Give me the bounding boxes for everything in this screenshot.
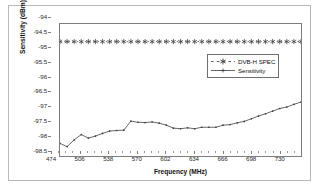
data-point-marker bbox=[122, 39, 126, 44]
x-axis-title: Frequency (MHz) bbox=[59, 168, 302, 175]
x-tick-mark-minor bbox=[287, 151, 288, 153]
dashed-asterisk-line-icon bbox=[210, 57, 236, 66]
x-tick-mark-minor bbox=[187, 151, 188, 153]
plot-canvas bbox=[60, 24, 301, 156]
data-point-marker bbox=[279, 108, 281, 110]
x-tick-mark-minor bbox=[265, 151, 266, 153]
data-point-marker bbox=[73, 139, 75, 141]
x-tick-mark-major bbox=[108, 151, 109, 154]
data-point-marker bbox=[158, 122, 160, 124]
x-tick-label: 474 bbox=[46, 155, 56, 162]
x-tick-mark-minor bbox=[208, 151, 209, 153]
x-tick-mark-minor bbox=[237, 151, 238, 153]
data-point-marker bbox=[286, 106, 288, 108]
legend-item-sensitivity[interactable]: Sensitivity bbox=[210, 66, 275, 75]
x-tick-mark-major bbox=[80, 151, 81, 154]
x-tick-mark-major bbox=[165, 151, 166, 154]
data-point-marker bbox=[236, 122, 238, 124]
data-point-marker bbox=[102, 133, 104, 135]
data-point-marker bbox=[173, 127, 175, 129]
data-point-marker bbox=[242, 39, 246, 44]
chart-figure: -94-94.5-95-95.5-96-96.5-97-97.5-98-98.5… bbox=[0, 0, 321, 188]
data-point-marker bbox=[80, 134, 82, 136]
x-tick-mark-minor bbox=[130, 151, 131, 153]
data-point-marker bbox=[151, 121, 153, 123]
solid-marker-line-icon bbox=[210, 66, 236, 75]
y-tick-label: -96.5 bbox=[17, 87, 47, 94]
data-point-marker bbox=[243, 121, 245, 123]
x-tick-mark-minor bbox=[87, 151, 88, 153]
x-tick-mark-minor bbox=[122, 151, 123, 153]
y-tick-label: -96 bbox=[17, 73, 47, 80]
data-point-marker bbox=[201, 126, 203, 128]
x-tick-mark-minor bbox=[215, 151, 216, 153]
x-tick-mark-minor bbox=[180, 151, 181, 153]
data-point-marker bbox=[150, 39, 154, 44]
data-point-marker bbox=[180, 128, 182, 130]
x-tick-mark-minor bbox=[115, 151, 116, 153]
data-point-marker bbox=[101, 39, 105, 44]
chart-frame: -94-94.5-95-95.5-96-96.5-97-97.5-98-98.5… bbox=[8, 5, 311, 181]
series-line bbox=[60, 102, 301, 147]
y-tick-label: -97 bbox=[17, 102, 47, 109]
x-tick-mark-minor bbox=[230, 151, 231, 153]
data-point-marker bbox=[88, 137, 90, 139]
y-tick-mark bbox=[48, 136, 51, 137]
data-point-marker bbox=[130, 120, 132, 122]
legend-label-sensitivity: Sensitivity bbox=[238, 67, 265, 74]
x-tick-mark-minor bbox=[273, 151, 274, 153]
x-tick-label: 570 bbox=[132, 155, 142, 162]
data-point-marker bbox=[229, 124, 231, 126]
x-tick-label: 602 bbox=[160, 155, 170, 162]
x-tick-mark-minor bbox=[94, 151, 95, 153]
y-tick-mark bbox=[48, 47, 51, 48]
data-point-marker bbox=[123, 129, 125, 131]
data-point-marker bbox=[222, 124, 224, 126]
y-tick-label: -98.5 bbox=[17, 147, 47, 154]
data-point-marker bbox=[66, 146, 68, 148]
x-tick-mark-major bbox=[223, 151, 224, 154]
data-point-marker bbox=[137, 121, 139, 123]
chart-legend[interactable]: DVB-H SPEC Sensitivity bbox=[207, 54, 279, 78]
y-axis-title: Sensitivity (dBm) bbox=[19, 0, 26, 54]
x-tick-mark-minor bbox=[151, 151, 152, 153]
x-tick-label: 730 bbox=[275, 155, 285, 162]
data-point-marker bbox=[215, 126, 217, 128]
data-point-marker bbox=[144, 122, 146, 124]
data-point-marker bbox=[208, 126, 210, 128]
x-tick-label: 666 bbox=[218, 155, 228, 162]
y-tick-label: -97.5 bbox=[17, 117, 47, 124]
x-tick-mark-minor bbox=[201, 151, 202, 153]
data-point-marker bbox=[79, 39, 83, 44]
data-point-marker bbox=[251, 118, 253, 120]
series-dvbh-spec bbox=[60, 39, 301, 44]
series-sensitivity bbox=[60, 101, 301, 147]
y-tick-label: -95.5 bbox=[17, 58, 47, 65]
data-point-marker bbox=[293, 104, 295, 106]
x-tick-mark-minor bbox=[294, 151, 295, 153]
x-tick-mark-minor bbox=[144, 151, 145, 153]
data-point-marker bbox=[171, 39, 175, 44]
x-tick-mark-major bbox=[280, 151, 281, 154]
y-tick-label: -98 bbox=[17, 132, 47, 139]
x-tick-label: 506 bbox=[75, 155, 85, 162]
x-tick-mark-minor bbox=[258, 151, 259, 153]
x-tick-mark-minor bbox=[65, 151, 66, 153]
data-point-marker bbox=[116, 130, 118, 132]
data-point-marker bbox=[165, 124, 167, 126]
data-point-marker bbox=[292, 39, 296, 44]
x-tick-mark-major bbox=[51, 151, 52, 154]
y-tick-mark bbox=[48, 121, 51, 122]
data-point-marker bbox=[258, 115, 260, 117]
x-tick-label: 634 bbox=[189, 155, 199, 162]
legend-item-spec[interactable]: DVB-H SPEC bbox=[210, 57, 275, 66]
y-tick-mark bbox=[48, 91, 51, 92]
y-tick-mark bbox=[48, 77, 51, 78]
data-point-marker bbox=[194, 128, 196, 130]
x-tick-mark-major bbox=[251, 151, 252, 154]
data-point-marker bbox=[187, 127, 189, 129]
x-tick-mark-minor bbox=[101, 151, 102, 153]
x-tick-mark-minor bbox=[58, 151, 59, 153]
data-point-marker bbox=[272, 110, 274, 112]
x-tick-label: 698 bbox=[246, 155, 256, 162]
